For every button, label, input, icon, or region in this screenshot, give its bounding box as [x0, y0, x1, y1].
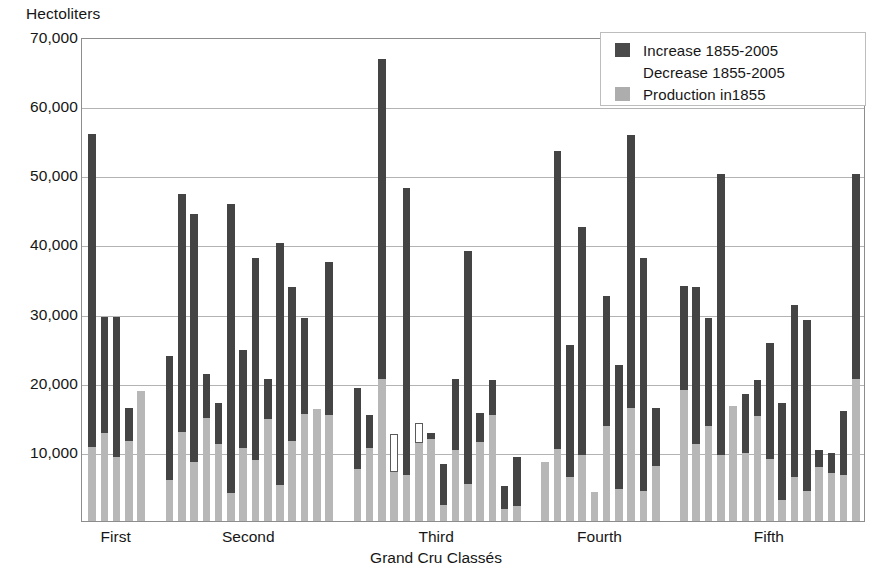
bar-segment-production — [452, 450, 460, 521]
plot-area — [81, 38, 865, 522]
bar-segment-production — [652, 466, 660, 521]
bar-segment-increase — [440, 464, 448, 505]
bar-segment-increase — [203, 374, 211, 418]
bar — [840, 37, 848, 521]
chart-legend: Increase 1855-2005Decrease 1855-2005Prod… — [600, 32, 866, 106]
x-axis-group-label: First — [101, 528, 131, 546]
bar-segment-increase — [717, 174, 725, 455]
bar — [325, 37, 333, 521]
bar-segment-increase — [705, 318, 713, 427]
legend-label: Increase 1855-2005 — [643, 42, 778, 59]
bar-segment-production — [489, 415, 497, 521]
legend-label: Decrease 1855-2005 — [643, 64, 785, 81]
bar-segment-increase — [325, 262, 333, 415]
y-axis-tick: 40,000 — [6, 236, 78, 254]
bar — [276, 37, 284, 521]
bar-segment-increase — [615, 365, 623, 488]
bar-segment-increase — [652, 408, 660, 466]
bar-segment-increase — [791, 305, 799, 478]
bar-segment-production — [252, 460, 260, 521]
bar — [791, 37, 799, 521]
bar-segment-increase — [378, 59, 386, 379]
chart-container: Hectoliters 10,00020,00030,00040,00050,0… — [0, 0, 872, 579]
bar-segment-increase — [239, 350, 247, 449]
bar — [489, 37, 497, 521]
bar — [403, 37, 411, 521]
bar-segment-increase — [803, 320, 811, 491]
bar-segment-increase — [452, 379, 460, 450]
bar-segment-production — [513, 506, 521, 521]
bar-segment-production — [325, 415, 333, 521]
bar-series-layer — [82, 39, 864, 521]
bar-segment-production — [627, 408, 635, 521]
bar — [313, 37, 321, 521]
bar-segment-production — [227, 493, 235, 521]
bar — [541, 37, 549, 521]
bar-segment-production — [840, 475, 848, 521]
y-axis-tick: 50,000 — [6, 167, 78, 185]
bar-segment-production — [566, 477, 574, 521]
bar — [427, 37, 435, 521]
y-axis-tick: 10,000 — [6, 444, 78, 462]
bar — [476, 37, 484, 521]
bar — [464, 37, 472, 521]
bar-segment-increase — [815, 450, 823, 467]
bar — [591, 37, 599, 521]
bar — [390, 37, 398, 521]
bar-segment-increase — [464, 251, 472, 484]
bar-segment-increase — [578, 227, 586, 454]
bar-segment-increase — [840, 411, 848, 475]
bar — [227, 37, 235, 521]
bar-segment-production — [427, 439, 435, 521]
bar-segment-production — [742, 453, 750, 521]
bar-segment-production — [137, 391, 145, 521]
bar-segment-increase — [766, 343, 774, 460]
bar — [778, 37, 786, 521]
bar — [828, 37, 836, 521]
bar-segment-production — [578, 455, 586, 521]
bar — [113, 37, 121, 521]
bar — [554, 37, 562, 521]
bar — [452, 37, 460, 521]
bar — [301, 37, 309, 521]
bar — [101, 37, 109, 521]
bar-segment-production — [501, 509, 509, 521]
bar — [566, 37, 574, 521]
bar-segment-production — [640, 491, 648, 521]
bar-segment-increase — [276, 243, 284, 485]
legend-item: Decrease 1855-2005 — [615, 61, 865, 83]
bar-segment-production — [276, 485, 284, 521]
bar-segment-increase — [88, 134, 96, 447]
legend-swatch-increase — [615, 43, 630, 57]
bar-segment-increase — [501, 486, 509, 509]
bar-segment-production — [366, 448, 374, 521]
bar-segment-production — [390, 472, 398, 521]
bar-segment-increase — [252, 258, 260, 460]
bar-segment-production — [440, 505, 448, 521]
bar-segment-production — [113, 457, 121, 521]
bar-segment-production — [125, 441, 133, 521]
bar — [137, 37, 145, 521]
bar-segment-production — [403, 475, 411, 521]
bar — [366, 37, 374, 521]
bar — [288, 37, 296, 521]
bar-segment-increase — [778, 403, 786, 499]
bar-segment-production — [415, 443, 423, 521]
bar-segment-production — [766, 459, 774, 521]
bar-segment-production — [828, 473, 836, 521]
bar — [264, 37, 272, 521]
bar — [717, 37, 725, 521]
bar-segment-increase — [554, 151, 562, 449]
y-axis-tick: 20,000 — [6, 375, 78, 393]
bar — [640, 37, 648, 521]
bar-segment-increase — [852, 174, 860, 379]
bar-segment-production — [378, 379, 386, 521]
bar-segment-increase — [680, 286, 688, 390]
bar — [440, 37, 448, 521]
bar — [803, 37, 811, 521]
bar — [852, 37, 860, 521]
bar — [88, 37, 96, 521]
bar — [603, 37, 611, 521]
bar-segment-production — [852, 379, 860, 521]
bar-segment-production — [313, 409, 321, 521]
